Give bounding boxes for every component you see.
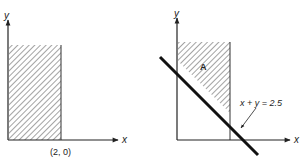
y-axis-label-right: y: [173, 8, 180, 19]
left-graph: [8, 20, 118, 140]
shaded-region-left: [9, 45, 61, 140]
x-axis-label-left: x: [121, 134, 128, 145]
right-graph: [160, 18, 290, 155]
region-label-A: A: [200, 62, 207, 72]
point-label: (2, 0): [50, 147, 71, 157]
shaded-region-A: [178, 42, 230, 140]
leader-arrow: [241, 108, 256, 128]
x-axis-label-right: x: [293, 134, 300, 145]
y-axis-label-left: y: [3, 10, 10, 21]
line-equation-label: x + y = 2.5: [239, 98, 283, 108]
diagram-canvas: y x (2, 0) y x A x + y = 2.5: [0, 0, 304, 167]
